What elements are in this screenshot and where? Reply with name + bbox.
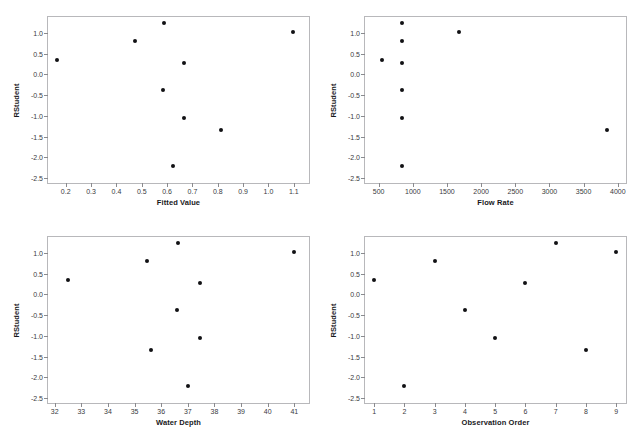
y-axis-tick: [44, 157, 48, 158]
data-point: [55, 58, 59, 62]
data-point: [186, 384, 190, 388]
data-point: [175, 308, 179, 312]
x-axis-tick: [66, 183, 67, 187]
data-point: [605, 128, 609, 132]
y-axis-tick: [361, 398, 365, 399]
x-axis-tick-label: 38: [211, 408, 219, 415]
y-axis-tick-label: -2.0: [348, 154, 360, 161]
x-axis-title-flow-rate: Flow Rate: [364, 198, 627, 207]
y-axis-tick-label: 0.0: [33, 291, 43, 298]
y-axis-tick-label: -2.5: [31, 395, 43, 402]
x-axis-tick-label: 5: [493, 408, 497, 415]
x-axis-tick: [525, 403, 526, 407]
y-axis-tick-label: -1.5: [31, 133, 43, 140]
x-axis-tick-label: 0.5: [137, 188, 147, 195]
x-axis-tick: [91, 183, 92, 187]
y-axis-tick: [44, 294, 48, 295]
y-axis-tick: [361, 74, 365, 75]
x-axis-tick-label: 34: [104, 408, 112, 415]
data-point: [182, 61, 186, 65]
y-axis-tick: [44, 398, 48, 399]
y-axis-tick: [44, 357, 48, 358]
y-axis-tick: [361, 377, 365, 378]
x-axis-tick: [268, 403, 269, 407]
x-axis-tick: [404, 403, 405, 407]
panel-flow-rate: RStudent 1.00.50.0-0.5-1.0-1.5-2.0-2.550…: [317, 0, 634, 220]
y-axis-title-water-depth: RStudent: [10, 236, 22, 404]
x-axis-tick-label: 9: [614, 408, 618, 415]
x-axis-tick: [142, 183, 143, 187]
y-axis-tick: [361, 336, 365, 337]
y-axis-tick: [361, 357, 365, 358]
x-axis-tick: [188, 403, 189, 407]
x-axis-tick-label: 1.1: [289, 188, 299, 195]
x-axis-tick-label: 39: [237, 408, 245, 415]
plot-area-fitted-value: 1.00.50.0-0.5-1.0-1.5-2.0-2.50.20.30.40.…: [48, 17, 309, 183]
data-point: [162, 21, 166, 25]
y-axis-tick: [44, 253, 48, 254]
x-axis-tick-label: 40: [264, 408, 272, 415]
y-axis-tick: [361, 33, 365, 34]
y-axis-tick: [44, 74, 48, 75]
x-axis-tick-label: 2: [402, 408, 406, 415]
panel-observation-order: RStudent 1.00.50.0-0.5-1.0-1.5-2.0-2.512…: [317, 220, 634, 440]
x-axis-tick: [294, 403, 295, 407]
x-axis-tick: [515, 183, 516, 187]
x-axis-tick: [435, 403, 436, 407]
y-axis-tick: [361, 54, 365, 55]
data-point: [400, 88, 404, 92]
data-point: [182, 116, 186, 120]
y-axis-tick-label: 1.0: [33, 249, 43, 256]
y-axis-tick-label: 1.0: [350, 29, 360, 36]
y-axis-tick: [44, 315, 48, 316]
plot-frame-water-depth: 1.00.50.0-0.5-1.0-1.5-2.0-2.532333435363…: [47, 236, 310, 404]
data-point: [176, 241, 180, 245]
y-axis-tick-label: 0.0: [350, 71, 360, 78]
x-axis-tick: [447, 183, 448, 187]
x-axis-tick: [192, 183, 193, 187]
y-axis-tick-label: 1.0: [33, 29, 43, 36]
x-axis-tick: [413, 183, 414, 187]
y-axis-tick: [44, 54, 48, 55]
plot-area-observation-order: 1.00.50.0-0.5-1.0-1.5-2.0-2.5123456789: [365, 237, 626, 403]
y-axis-tick: [361, 116, 365, 117]
y-axis-tick: [361, 178, 365, 179]
data-point: [372, 278, 376, 282]
y-axis-tick: [44, 95, 48, 96]
residual-diagnostics-figure: RStudent 1.00.50.0-0.5-1.0-1.5-2.0-2.50.…: [0, 0, 634, 440]
x-axis-tick-label: 37: [184, 408, 192, 415]
x-axis-tick: [495, 403, 496, 407]
x-axis-title-fitted-value: Fitted Value: [47, 198, 310, 207]
x-axis-tick: [135, 403, 136, 407]
x-axis-tick-label: 1: [372, 408, 376, 415]
x-axis-tick-label: 3500: [576, 188, 592, 195]
x-axis-tick: [167, 183, 168, 187]
y-axis-tick-label: 0.5: [350, 270, 360, 277]
x-axis-tick-label: 0.8: [213, 188, 223, 195]
data-point: [554, 241, 558, 245]
y-axis-tick-label: 0.5: [33, 50, 43, 57]
x-axis-tick-label: 1000: [405, 188, 421, 195]
data-point: [198, 281, 202, 285]
x-axis-tick-label: 7: [554, 408, 558, 415]
data-point: [133, 39, 137, 43]
y-axis-tick-label: -2.0: [31, 374, 43, 381]
y-axis-tick-label: -2.5: [31, 175, 43, 182]
x-axis-tick-label: 32: [51, 408, 59, 415]
data-point: [614, 250, 618, 254]
plot-frame-fitted-value: 1.00.50.0-0.5-1.0-1.5-2.0-2.50.20.30.40.…: [47, 16, 310, 184]
y-axis-tick: [361, 294, 365, 295]
data-point: [433, 259, 437, 263]
x-axis-tick: [108, 403, 109, 407]
y-axis-tick-label: -2.5: [348, 175, 360, 182]
x-axis-tick: [268, 183, 269, 187]
x-axis-tick-label: 0.9: [238, 188, 248, 195]
x-axis-tick-label: 3: [433, 408, 437, 415]
x-axis-tick-label: 500: [373, 188, 385, 195]
y-axis-tick-label: -2.5: [348, 395, 360, 402]
x-axis-tick-label: 2500: [508, 188, 524, 195]
x-axis-tick: [584, 183, 585, 187]
x-axis-tick-label: 8: [584, 408, 588, 415]
y-axis-tick: [44, 137, 48, 138]
data-point: [145, 259, 149, 263]
